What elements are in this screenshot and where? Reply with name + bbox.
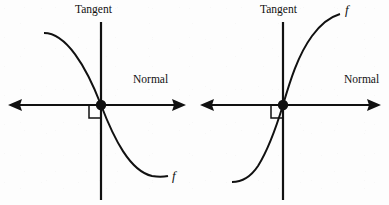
left-panel-group [8,22,186,200]
function-label-right: f [345,2,349,18]
tangent-label-right: Tangent [260,3,297,16]
normal-label-left: Normal [133,73,168,86]
function-label-left: f [172,168,176,184]
normal-line-right-arrow-start [200,99,214,111]
tangent-label-left: Tangent [75,3,112,16]
normal-label-right: Normal [344,73,379,86]
inflection-point-right [278,100,288,110]
normal-line-right-arrow-end [367,99,381,111]
function-curve-right [232,14,340,182]
inflection-point-left [96,100,106,110]
math-figure-canvas: Tangent Normal f Tangent Normal f [0,0,389,205]
right-panel-group [200,14,381,200]
normal-line-left-arrow-end [172,99,186,111]
figure-vector-layer [0,0,389,205]
normal-line-left-arrow-start [8,99,22,111]
